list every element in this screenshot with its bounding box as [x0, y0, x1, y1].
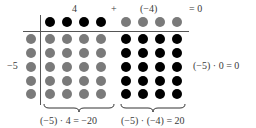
grid-counter-right-block — [121, 89, 131, 99]
grid-counter-left-block — [79, 62, 89, 72]
grid-counter-right-block — [121, 62, 131, 72]
grid-counter-left-block — [62, 89, 72, 99]
negative-counter-left — [26, 62, 36, 72]
grid-counter-right-block — [155, 62, 165, 72]
grid-counter-left-block — [79, 48, 89, 58]
grid-counter-left-block — [45, 48, 55, 58]
grid-counter-right-block — [121, 48, 131, 58]
grid-counter-right-block — [138, 34, 148, 44]
grid-counter-right-block — [155, 48, 165, 58]
grid-counter-left-block — [62, 48, 72, 58]
grid-counter-right-block — [121, 76, 131, 86]
grid-counter-right-block — [138, 89, 148, 99]
grid-counter-right-block — [172, 62, 182, 72]
negative-counter-left — [26, 76, 36, 86]
grid-counter-right-block — [172, 34, 182, 44]
negative-counter-top — [155, 17, 165, 27]
right-equation: (−5) · 0 = 0 — [193, 60, 239, 72]
negative-counter-left — [26, 48, 36, 58]
grid-counter-left-block — [96, 62, 106, 72]
negative-counter-top — [172, 17, 182, 27]
bottom-right-equation: (−5) · (−4) = 20 — [121, 115, 185, 127]
grid-counter-right-block — [155, 34, 165, 44]
bottom-left-equation: (−5) · 4 = −20 — [40, 115, 97, 127]
top-result: = 0 — [189, 3, 202, 15]
grid-counter-left-block — [62, 62, 72, 72]
vertical-axis-line — [40, 15, 41, 105]
right-brace-icon — [120, 104, 186, 112]
negative-counter-top — [121, 17, 131, 27]
grid-counter-right-block — [138, 76, 148, 86]
negative-counter-left — [26, 89, 36, 99]
top-plus-sign: + — [111, 3, 117, 15]
grid-counter-right-block — [138, 62, 148, 72]
grid-counter-right-block — [172, 76, 182, 86]
left-brace-icon — [43, 104, 115, 112]
row-label-neg5: −5 — [7, 60, 18, 72]
grid-counter-left-block — [79, 76, 89, 86]
top-term-4: 4 — [72, 3, 77, 15]
grid-counter-right-block — [172, 48, 182, 58]
grid-counter-left-block — [96, 76, 106, 86]
positive-counter-top — [62, 17, 72, 27]
grid-counter-right-block — [138, 48, 148, 58]
grid-counter-left-block — [96, 89, 106, 99]
grid-counter-left-block — [45, 76, 55, 86]
grid-counter-left-block — [45, 89, 55, 99]
grid-counter-right-block — [155, 76, 165, 86]
horizontal-axis-line — [23, 31, 189, 32]
grid-counter-left-block — [45, 34, 55, 44]
positive-counter-top — [79, 17, 89, 27]
grid-counter-left-block — [62, 76, 72, 86]
grid-counter-left-block — [79, 34, 89, 44]
grid-counter-right-block — [155, 89, 165, 99]
grid-counter-right-block — [172, 89, 182, 99]
grid-counter-left-block — [96, 48, 106, 58]
grid-counter-left-block — [79, 89, 89, 99]
grid-counter-left-block — [62, 34, 72, 44]
negative-counter-left — [26, 34, 36, 44]
grid-counter-left-block — [45, 62, 55, 72]
negative-counter-top — [138, 17, 148, 27]
positive-counter-top — [96, 17, 106, 27]
positive-counter-top — [45, 17, 55, 27]
grid-counter-left-block — [96, 34, 106, 44]
grid-counter-right-block — [121, 34, 131, 44]
top-term-neg4: (−4) — [140, 3, 157, 15]
